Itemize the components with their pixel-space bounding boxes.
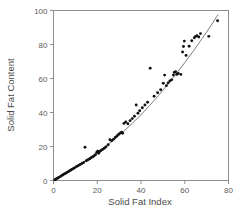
data-point [84,146,87,149]
x-tick-label: 80 [224,186,233,195]
data-point [136,112,139,115]
data-point [185,54,188,57]
data-point [105,145,108,148]
data-point [216,19,219,22]
data-point [143,104,146,107]
y-tick-label: 100 [34,7,48,16]
chart-canvas: 020406080 020406080100 Solid Fat Index S… [0,0,245,210]
data-point [138,109,141,112]
x-axis-ticks [54,181,229,185]
y-tick-label: 20 [39,143,48,152]
data-point-group [53,19,219,181]
data-point [135,104,138,107]
data-point [170,78,173,81]
data-point [163,74,166,77]
data-point [146,101,149,104]
data-point [82,161,85,164]
y-axis-tick-labels: 020406080100 [34,7,48,186]
data-point [199,32,202,35]
data-point [159,88,162,91]
data-point [107,143,110,146]
scatter-chart: 020406080 020406080100 Solid Fat Index S… [0,0,245,210]
data-point [121,132,124,135]
x-axis-tick-labels: 020406080 [51,186,233,195]
data-point [133,115,136,118]
data-point [131,117,134,120]
data-point [197,36,200,39]
plot-frame-box [54,11,229,181]
data-point [141,106,144,109]
x-axis-title: Solid Fat Index [108,196,172,207]
data-point [126,122,129,125]
data-point [172,74,175,77]
y-axis-title: Solid Fat Content [5,58,16,132]
data-point [190,39,193,42]
y-tick-label: 40 [39,109,48,118]
data-point [165,84,168,87]
y-tick-label: 60 [39,75,48,84]
y-axis-ticks [50,11,54,181]
x-tick-label: 20 [93,186,102,195]
data-point [188,45,191,48]
data-point [181,51,184,54]
data-point [149,67,152,70]
data-point [179,73,182,76]
data-point [129,119,132,122]
data-point [174,70,177,73]
data-point [207,35,210,38]
plot-frame [54,11,229,181]
data-point [162,82,165,85]
y-tick-label: 0 [43,177,48,186]
data-point [156,91,159,94]
y-tick-label: 80 [39,41,48,50]
x-tick-label: 0 [51,186,56,195]
x-tick-label: 40 [137,186,146,195]
x-tick-label: 60 [180,186,189,195]
data-point [183,40,186,43]
data-point [182,45,185,48]
data-point [177,72,180,75]
fitted-curve [54,15,219,181]
data-point [153,95,156,98]
